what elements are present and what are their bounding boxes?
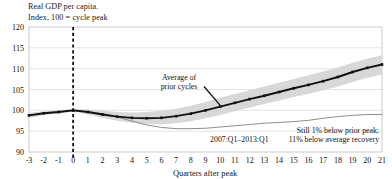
data-point-marker <box>57 111 60 114</box>
x-tick-label: 8 <box>189 156 193 165</box>
x-tick-label: -2 <box>40 156 47 165</box>
x-tick-label: 12 <box>246 156 254 165</box>
x-tick-label: 3 <box>115 156 119 165</box>
x-tick-label: 1 <box>86 156 90 165</box>
y-tick-label: 105 <box>12 86 24 95</box>
x-tick-label: 21 <box>378 156 386 165</box>
annotation-average-line-1: Average of <box>162 73 197 82</box>
x-tick-label: 15 <box>290 156 298 165</box>
x-tick-label: 2 <box>101 156 105 165</box>
annotation-average-line-2: prior cycles <box>161 82 198 91</box>
x-tick-label: 16 <box>304 156 312 165</box>
data-point-marker <box>175 115 178 118</box>
x-tick-label: 7 <box>174 156 178 165</box>
x-tick-label: -3 <box>26 156 33 165</box>
data-point-marker <box>366 67 369 70</box>
data-point-marker <box>160 117 163 120</box>
x-tick-label: 13 <box>260 156 268 165</box>
y-tick-label: 95 <box>16 127 24 136</box>
x-tick-label: 17 <box>319 156 327 165</box>
data-point-marker <box>248 98 251 101</box>
x-tick-label: 4 <box>130 156 134 165</box>
y-tick-label: 90 <box>16 148 24 157</box>
data-point-marker <box>131 117 134 120</box>
x-tick-label: 6 <box>159 156 163 165</box>
x-tick-label: -1 <box>55 156 62 165</box>
annotation-shortfall-line-1: Still 1% below prior peak; <box>297 126 379 135</box>
annotation-shortfall-line-2: 11% below average recovery <box>289 135 380 144</box>
data-point-marker <box>351 71 354 74</box>
x-tick-label: 0 <box>71 156 75 165</box>
data-point-marker <box>337 76 340 79</box>
data-point-marker <box>263 94 266 97</box>
x-tick-label: 14 <box>275 156 283 165</box>
data-point-marker <box>278 91 281 94</box>
chart-plot: 9095100105110115120 -3-2-101234567891011… <box>0 0 392 179</box>
y-tick-label: 110 <box>12 65 24 74</box>
data-point-marker <box>219 105 222 108</box>
data-point-marker <box>189 112 192 115</box>
data-point-marker <box>381 63 384 66</box>
x-axis-ticks: -3-2-10123456789101112131415161718192021 <box>26 156 386 165</box>
x-tick-label: 11 <box>231 156 239 165</box>
data-point-marker <box>292 87 295 90</box>
chart-container: Real GDP per capita. Index, 100 = cycle … <box>0 0 392 179</box>
y-tick-label: 115 <box>12 44 24 53</box>
annotation-recession-period: 2007:Q1–2013:Q1 <box>210 135 269 144</box>
band-area <box>29 55 382 124</box>
uncertainty-band <box>29 55 382 124</box>
data-point-marker <box>72 109 75 112</box>
x-tick-label: 18 <box>334 156 342 165</box>
data-point-marker <box>145 117 148 120</box>
x-tick-label: 10 <box>216 156 224 165</box>
data-point-marker <box>101 113 104 116</box>
x-tick-label: 19 <box>349 156 357 165</box>
data-point-marker <box>28 114 31 117</box>
data-point-marker <box>116 115 119 118</box>
data-point-marker <box>42 112 45 115</box>
data-point-marker <box>307 84 310 87</box>
y-tick-label: 120 <box>12 23 24 32</box>
y-tick-label: 100 <box>12 106 24 115</box>
x-axis-label: Quarters after peak <box>173 169 238 178</box>
y-axis-ticks: 9095100105110115120 <box>12 23 24 157</box>
data-point-marker <box>204 109 207 112</box>
x-tick-label: 5 <box>145 156 149 165</box>
x-tick-label: 20 <box>363 156 371 165</box>
data-point-marker <box>322 80 325 83</box>
gridlines <box>29 48 382 131</box>
x-tick-label: 9 <box>204 156 208 165</box>
data-point-marker <box>87 111 90 114</box>
data-point-marker <box>234 102 237 105</box>
